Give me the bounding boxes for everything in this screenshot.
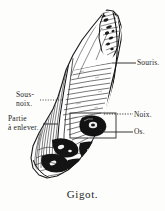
label-os: Os. [134,128,145,137]
label-sous-noix: Sous- noix. [16,91,34,108]
label-noix: Noix. [134,111,152,120]
label-sous-noix-line2: noix. [16,100,34,109]
gigot-figure: Souris. Noix. Os. Sous- noix. Partie à e… [0,0,165,211]
figure-caption: Gigot. [0,188,165,200]
label-souris-text: Souris. [137,59,159,68]
label-noix-text: Noix. [134,111,152,120]
label-os-text: Os. [134,128,145,137]
label-partie-a-enlever: Partie à enlever. [8,115,39,132]
label-partie-line2: à enlever. [8,124,39,133]
label-souris: Souris. [137,59,159,68]
